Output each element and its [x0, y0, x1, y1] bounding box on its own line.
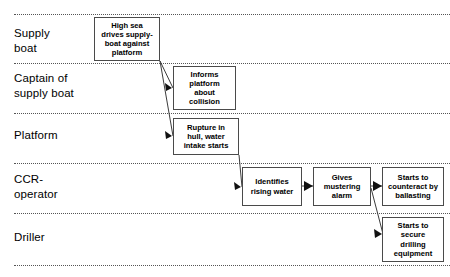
- lane-divider-4: [14, 213, 450, 214]
- lane-label-supply-boat: Supply boat: [14, 26, 50, 55]
- swimlane-diagram: Supply boatCaptain of supply boatPlatfor…: [0, 0, 450, 277]
- activity-box-starts-to-secure-drilling[interactable]: Starts to secure drilling equipment: [382, 217, 444, 262]
- connector-high-sea-to-informs: [160, 61, 173, 91]
- activity-box-starts-to-counteract[interactable]: Starts to counteract by ballasting: [382, 167, 444, 206]
- connector-line-high-sea-to-informs: [160, 61, 173, 88]
- arrowhead-icon-high-sea-to-informs: [165, 83, 172, 91]
- lane-label-platform: Platform: [14, 128, 58, 143]
- arrowhead-icon-high-sea-to-rupture: [165, 131, 172, 139]
- connector-high-sea-to-rupture: [160, 61, 173, 139]
- arrowhead-icon-rupture-to-identifies: [234, 182, 241, 190]
- lane-label-captain-of-supply-boat: Captain of supply boat: [14, 71, 74, 100]
- activity-box-high-sea-drives[interactable]: High sea drives supply- boat against pla…: [94, 17, 160, 61]
- lane-divider-5: [14, 265, 450, 266]
- lane-divider-0: [14, 14, 450, 15]
- lane-label-ccr-operator: CCR- operator: [14, 172, 58, 201]
- connector-gives-to-counteract: [371, 181, 382, 191]
- connector-identifies-to-gives: [302, 181, 313, 191]
- arrowhead-icon-identifies-to-gives: [304, 181, 313, 191]
- lane-label-driller: Driller: [14, 230, 45, 245]
- lane-divider-3: [14, 163, 450, 164]
- activity-box-rupture-in-hull[interactable]: Rupture in hull, water intake starts: [173, 118, 239, 155]
- lane-divider-1: [14, 63, 450, 64]
- activity-box-gives-mustering-alarm[interactable]: Gives mustering alarm: [313, 167, 371, 206]
- arrowhead-icon-gives-to-counteract: [373, 181, 382, 191]
- arrowhead-icon-gives-to-secure-drilling: [374, 229, 382, 238]
- activity-box-identifies-rising-water[interactable]: Identifies rising water: [242, 167, 302, 206]
- lane-divider-2: [14, 113, 450, 114]
- connector-line-high-sea-to-rupture: [160, 61, 173, 136]
- connector-rupture-to-identifies: [234, 155, 242, 190]
- activity-box-informs-platform[interactable]: Informs platform about collision: [173, 66, 236, 110]
